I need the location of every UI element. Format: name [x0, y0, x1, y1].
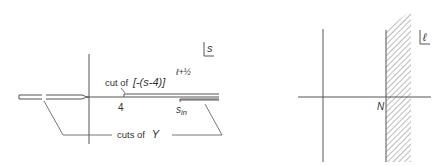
leader-line-left: [44, 101, 112, 135]
s-plane-letter: s: [207, 42, 213, 54]
s-plane-diagram: s cut of [-(s-4)] ℓ+½ 4 sin cuts of Y: [19, 42, 222, 144]
diagram-canvas: s cut of [-(s-4)] ℓ+½ 4 sin cuts of Y: [0, 0, 445, 166]
branch-point-4: 4: [118, 102, 124, 113]
hatched-region: [386, 10, 411, 162]
left-cut-of-Y: [19, 95, 89, 99]
cut-arrow: [121, 88, 125, 93]
s-in-label: sin: [176, 104, 187, 117]
N-label: N: [377, 101, 385, 112]
s-plane-label: s: [204, 42, 214, 56]
cuts-of-Y-label: cuts of Y: [117, 128, 160, 140]
l-plane-diagram: N ℓ: [298, 10, 431, 162]
cut-exponent: ℓ+½: [175, 67, 191, 77]
l-plane-label: ℓ: [420, 30, 430, 44]
right-cut-of-Y: [180, 99, 219, 102]
l-plane-letter: ℓ: [422, 31, 427, 43]
cut-label: cut of [-(s-4)]: [105, 76, 166, 88]
